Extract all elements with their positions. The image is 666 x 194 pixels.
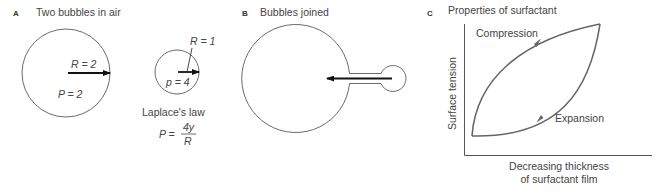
panel-c-title: Properties of surfactant — [448, 4, 557, 16]
laplace-law-denominator: R — [184, 135, 192, 147]
small-bubble-pressure-label: p = 4 — [165, 76, 190, 88]
large-bubble-pressure-label: P = 2 — [58, 88, 83, 100]
laplace-law-lhs: P = — [159, 128, 175, 140]
x-axis-label-line2: of surfactant film — [520, 173, 597, 185]
panel-a: A Two bubbles in air R = 2 P = 2 R = 1 p… — [13, 6, 215, 147]
compression-label: Compression — [476, 27, 538, 39]
small-bubble-radius-label: R = 1 — [190, 35, 215, 47]
panel-b: B Bubbles joined — [242, 6, 406, 133]
radius-leader-line — [187, 48, 192, 72]
figure-canvas: A Two bubbles in air R = 2 P = 2 R = 1 p… — [0, 0, 666, 194]
y-axis-label: Surface tension — [446, 57, 458, 130]
x-axis-label-line1: Decreasing thickness — [509, 160, 609, 172]
laplace-law-numerator: 4y — [183, 121, 195, 133]
large-bubble-radius-label: R = 2 — [71, 58, 97, 70]
expansion-label: Expansion — [555, 112, 604, 124]
panel-a-letter: A — [13, 9, 19, 18]
panel-c: C Properties of surfactant Compression E… — [427, 4, 652, 185]
panel-c-letter: C — [427, 9, 433, 18]
panel-b-title: Bubbles joined — [260, 6, 329, 18]
panel-a-title: Two bubbles in air — [36, 6, 121, 18]
panel-b-letter: B — [242, 9, 248, 18]
laplace-law-title: Laplace's law — [142, 106, 205, 118]
